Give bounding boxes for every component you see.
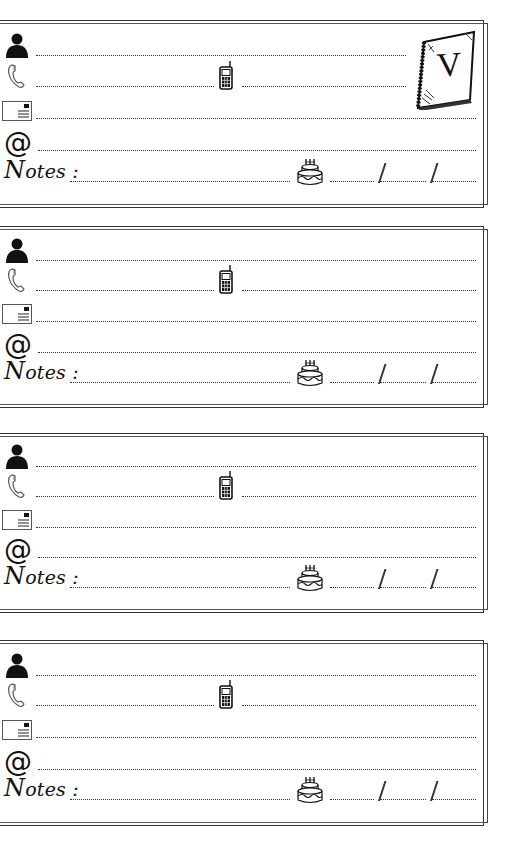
address-row: [0, 712, 484, 742]
notes-label-rest: otes :: [25, 778, 79, 800]
email-field[interactable]: [38, 557, 476, 558]
birthday-cake-icon: [295, 776, 325, 804]
notes-label-rest: otes :: [25, 566, 79, 588]
at-sign-icon: @: [4, 536, 32, 564]
at-sign-icon: @: [4, 331, 32, 359]
email-field[interactable]: [38, 352, 476, 353]
phone-icon: [4, 682, 30, 708]
birthday-month-field[interactable]: [380, 382, 426, 383]
address-field[interactable]: [36, 321, 476, 322]
phone-row: [0, 680, 484, 710]
birthday-year-field[interactable]: [432, 382, 476, 383]
envelope-icon: [2, 720, 32, 740]
person-icon: [4, 652, 30, 678]
mobile-phone-icon: [218, 680, 234, 710]
name-field[interactable]: [36, 55, 406, 56]
contact-card: @ Notes :: [0, 640, 484, 826]
name-field[interactable]: [36, 466, 476, 467]
notes-label-initial: N: [4, 562, 25, 590]
notes-label: Notes :: [4, 156, 79, 184]
phone-field[interactable]: [36, 86, 214, 87]
mobile-field[interactable]: [242, 86, 406, 87]
mobile-field[interactable]: [242, 290, 476, 291]
phone-icon: [4, 63, 30, 89]
notes-field[interactable]: [70, 587, 290, 588]
address-field[interactable]: [36, 737, 476, 738]
date-separator: [430, 364, 438, 384]
phone-icon: [4, 473, 30, 499]
envelope-icon: [2, 101, 32, 121]
name-field[interactable]: [36, 675, 476, 676]
notes-label: Notes :: [4, 774, 79, 802]
birthday-month-field[interactable]: [380, 799, 426, 800]
person-icon: [4, 237, 30, 263]
envelope-icon: [2, 304, 32, 324]
birthday-day-field[interactable]: [330, 799, 374, 800]
email-row: @: [0, 744, 484, 774]
contact-card: @ Notes :: [0, 433, 484, 613]
notes-row: Notes :: [0, 357, 484, 387]
date-separator: [430, 569, 438, 589]
birthday-year-field[interactable]: [432, 587, 476, 588]
address-field[interactable]: [36, 527, 476, 528]
notes-field[interactable]: [70, 382, 290, 383]
date-separator: [378, 781, 386, 801]
date-separator: [378, 163, 386, 183]
birthday-cake-icon: [295, 564, 325, 592]
email-row: @: [0, 532, 484, 562]
birthday-cake-icon: [295, 359, 325, 387]
date-separator: [430, 781, 438, 801]
notes-label-initial: N: [4, 357, 25, 385]
person-icon: [4, 443, 30, 469]
contact-card: @ Notes :: [0, 20, 484, 208]
address-row: [0, 502, 484, 532]
mobile-field[interactable]: [242, 496, 476, 497]
notes-row: Notes :: [0, 156, 484, 186]
phone-field[interactable]: [36, 496, 214, 497]
notes-row: Notes :: [0, 562, 484, 592]
mobile-phone-icon: [218, 471, 234, 501]
birthday-cake-icon: [295, 158, 325, 186]
at-sign-icon: @: [4, 748, 32, 776]
birthday-day-field[interactable]: [330, 181, 374, 182]
email-row: @: [0, 125, 484, 155]
birthday-day-field[interactable]: [330, 587, 374, 588]
name-row: [0, 235, 484, 265]
address-field[interactable]: [36, 118, 476, 119]
phone-field[interactable]: [36, 290, 214, 291]
name-field[interactable]: [36, 260, 476, 261]
address-row: [0, 296, 484, 326]
name-row: [0, 650, 484, 680]
mobile-phone-icon: [218, 265, 234, 295]
notes-label-initial: N: [4, 774, 25, 802]
section-letter: V: [436, 45, 463, 85]
phone-icon: [4, 267, 30, 293]
date-separator: [378, 364, 386, 384]
birthday-month-field[interactable]: [380, 587, 426, 588]
notes-label-rest: otes :: [25, 160, 79, 182]
section-letter-badge: V: [410, 30, 478, 110]
birthday-year-field[interactable]: [432, 181, 476, 182]
birthday-year-field[interactable]: [432, 799, 476, 800]
phone-row: [0, 471, 484, 501]
notes-label: Notes :: [4, 357, 79, 385]
email-field[interactable]: [38, 150, 476, 151]
birthday-month-field[interactable]: [380, 181, 426, 182]
name-row: [0, 441, 484, 471]
mobile-field[interactable]: [242, 705, 476, 706]
date-separator: [430, 163, 438, 183]
email-field[interactable]: [38, 769, 476, 770]
birthday-day-field[interactable]: [330, 382, 374, 383]
contact-card: @ Notes :: [0, 226, 484, 408]
notes-label-initial: N: [4, 156, 25, 184]
notes-field[interactable]: [70, 181, 290, 182]
phone-field[interactable]: [36, 705, 214, 706]
notes-row: Notes :: [0, 774, 484, 804]
notes-field[interactable]: [70, 799, 290, 800]
date-separator: [378, 569, 386, 589]
mobile-phone-icon: [218, 61, 234, 91]
envelope-icon: [2, 510, 32, 530]
phone-row: [0, 265, 484, 295]
at-sign-icon: @: [4, 129, 32, 157]
notes-label-rest: otes :: [25, 361, 79, 383]
